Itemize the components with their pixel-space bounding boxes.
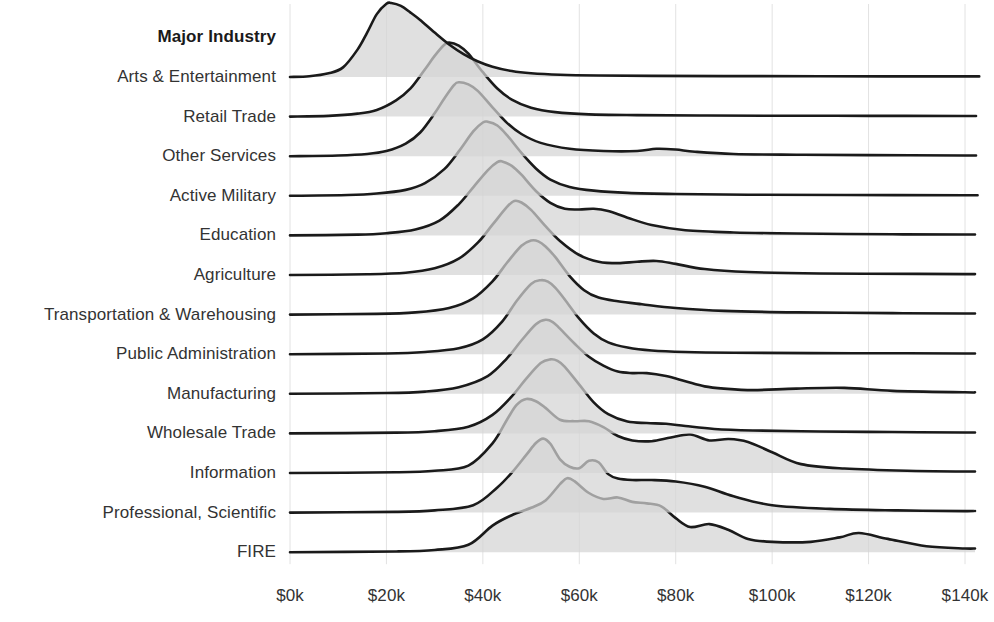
ridge-row[interactable] (290, 399, 975, 473)
ridge-row[interactable] (290, 320, 975, 394)
ridge-outline (290, 280, 975, 354)
ridgeline-chart: Major IndustryArts & EntertainmentRetail… (0, 0, 994, 622)
ridge-fill (290, 399, 975, 473)
ridge-fill (290, 161, 975, 235)
ridge-row[interactable] (290, 82, 976, 156)
x-tick-140k: $140k (942, 586, 989, 606)
ridge-fill (290, 3, 979, 77)
ridge-outline (290, 121, 978, 195)
ridge-outline (290, 359, 975, 433)
ridge-fill (290, 201, 975, 275)
ridge-row[interactable] (290, 3, 979, 77)
ridge-row[interactable] (290, 359, 975, 433)
x-tick-20k: $20k (368, 586, 405, 606)
ridge-fill (290, 320, 975, 394)
x-tick-80k: $80k (657, 586, 694, 606)
ridge-outline (290, 82, 976, 156)
ridge-row[interactable] (290, 161, 975, 235)
x-tick-0k: $0k (276, 586, 304, 606)
ridge-fill (290, 121, 978, 195)
ridge-fill (290, 280, 975, 354)
ridges-group (290, 3, 979, 553)
ridge-fill (290, 82, 976, 156)
x-tick-40k: $40k (464, 586, 501, 606)
ridge-row[interactable] (290, 280, 975, 354)
plot-area (0, 0, 994, 622)
ridge-row[interactable] (290, 121, 978, 195)
ridge-row[interactable] (290, 201, 975, 275)
x-tick-60k: $60k (561, 586, 598, 606)
ridge-outline (290, 240, 975, 314)
x-tick-100k: $100k (749, 586, 796, 606)
x-tick-120k: $120k (845, 586, 892, 606)
ridge-row[interactable] (290, 240, 975, 314)
